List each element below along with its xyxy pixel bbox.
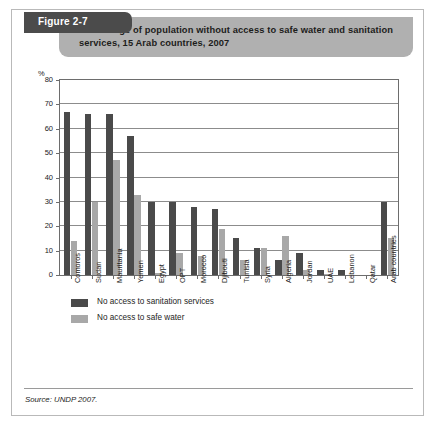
y-tick-mark-10 bbox=[56, 251, 59, 252]
y-tick-label-40: 40 bbox=[31, 173, 53, 182]
x-tick-11 bbox=[303, 275, 304, 279]
x-tick-2 bbox=[113, 275, 114, 279]
legend-swatch-2 bbox=[71, 315, 88, 323]
legend-swatch-1 bbox=[71, 299, 88, 307]
x-axis-label-opt: OPT bbox=[178, 268, 187, 283]
bar-syria-series-1 bbox=[254, 248, 261, 275]
y-tick-label-20: 20 bbox=[31, 221, 53, 230]
x-axis-label-sudan: Sudan bbox=[94, 262, 103, 283]
bar-djibouti-series-1 bbox=[212, 209, 219, 275]
x-axis-label-qatar: Qatar bbox=[368, 265, 377, 283]
bar-jordan-series-1 bbox=[296, 253, 303, 275]
bar-uae-series-1 bbox=[317, 270, 324, 275]
x-axis-label-jordan: Jordan bbox=[305, 260, 314, 283]
bar-morocco-series-1 bbox=[191, 207, 198, 275]
x-tick-3 bbox=[134, 275, 135, 279]
y-tick-label-10: 10 bbox=[31, 246, 53, 255]
y-tick-mark-60 bbox=[56, 129, 59, 130]
x-tick-12 bbox=[324, 275, 325, 279]
chart-area: % 01020304050607080 ComorosSudanMauritan… bbox=[12, 57, 425, 357]
y-tick-label-70: 70 bbox=[31, 99, 53, 108]
bar-tunisia-series-1 bbox=[233, 238, 240, 275]
x-axis-label-algeria: Algeria bbox=[284, 260, 293, 283]
bar-yemen-series-1 bbox=[127, 136, 134, 275]
x-tick-1 bbox=[92, 275, 93, 279]
x-tick-0 bbox=[71, 275, 72, 279]
y-tick-mark-80 bbox=[56, 80, 59, 81]
bar-algeria-series-1 bbox=[275, 260, 282, 275]
bar-sudan-series-1 bbox=[85, 114, 92, 275]
bar-mauritania-series-1 bbox=[106, 114, 113, 275]
y-tick-label-50: 50 bbox=[31, 148, 53, 157]
y-tick-mark-40 bbox=[56, 178, 59, 179]
bar-comoros-series-1 bbox=[64, 112, 71, 275]
x-axis-label-syria: Syria bbox=[263, 266, 272, 283]
x-axis-label-tunisia: Tunisia bbox=[242, 259, 251, 283]
bar-opt-series-1 bbox=[169, 202, 176, 275]
x-axis-label-lebanon: Lebanon bbox=[347, 254, 356, 283]
y-tick-label-0: 0 bbox=[31, 270, 53, 279]
y-tick-label-30: 30 bbox=[31, 197, 53, 206]
x-axis-label-morocco: Morocco bbox=[199, 255, 208, 283]
y-tick-label-80: 80 bbox=[31, 75, 53, 84]
x-axis-label-arab-countries: Arab countries bbox=[389, 235, 398, 283]
x-axis-label-djibouti: Djibouti bbox=[220, 258, 229, 283]
y-tick-mark-50 bbox=[56, 153, 59, 154]
x-tick-4 bbox=[155, 275, 156, 279]
source-divider bbox=[24, 388, 413, 389]
y-tick-label-60: 60 bbox=[31, 124, 53, 133]
x-axis-label-uae: UAE bbox=[326, 268, 335, 283]
plot-frame bbox=[59, 79, 399, 276]
figure-header: Percentage of population without access … bbox=[12, 10, 425, 57]
x-tick-9 bbox=[261, 275, 262, 279]
bar-lebanon-series-1 bbox=[338, 270, 345, 275]
bars-layer bbox=[60, 80, 398, 275]
y-tick-mark-70 bbox=[56, 104, 59, 105]
source-note: Source: UNDP 2007. bbox=[25, 395, 98, 404]
x-axis-label-comoros: Comoros bbox=[73, 253, 82, 283]
figure-panel: Percentage of population without access … bbox=[11, 9, 424, 416]
x-axis-label-yemen: Yemen bbox=[136, 260, 145, 283]
x-axis-label-egypt: Egypt bbox=[157, 264, 166, 283]
x-axis-label-mauritania: Mauritania bbox=[115, 248, 124, 283]
y-tick-mark-0 bbox=[56, 275, 59, 276]
y-tick-mark-20 bbox=[56, 226, 59, 227]
figure-number-tab: Figure 2-7 bbox=[24, 12, 132, 33]
legend-label-2: No access to safe water bbox=[97, 313, 184, 322]
legend-label-1: No access to sanitation services bbox=[97, 297, 214, 306]
y-tick-mark-30 bbox=[56, 202, 59, 203]
x-tick-8 bbox=[240, 275, 241, 279]
bar-arab-countries-series-1 bbox=[381, 202, 388, 275]
bar-egypt-series-1 bbox=[148, 202, 155, 275]
figure-number-label: Figure 2-7 bbox=[38, 16, 88, 27]
x-tick-10 bbox=[282, 275, 283, 279]
